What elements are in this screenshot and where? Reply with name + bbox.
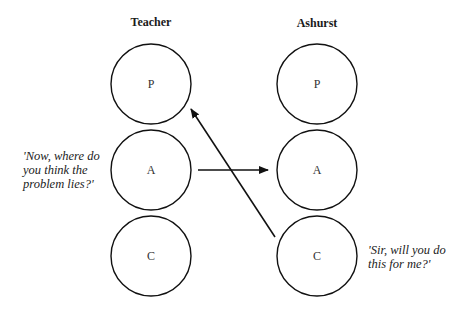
- teacher-quote-line: problem lies?': [23, 177, 100, 191]
- ashurst-quote-line: this for me?': [368, 257, 446, 271]
- ashurst-c-label: C: [313, 249, 321, 264]
- ashurst-p-label: P: [314, 77, 321, 92]
- ashurst-quote: 'Sir, will you do this for me?': [368, 243, 446, 271]
- arrow-ashurst-child-to-teacher-parent: [191, 109, 275, 237]
- teacher-quote-line: 'Now, where do: [23, 149, 100, 163]
- teacher-p-label: P: [148, 77, 155, 92]
- teacher-title: Teacher: [131, 15, 172, 30]
- teacher-quote-line: you think the: [23, 163, 100, 177]
- teacher-c-label: C: [147, 249, 155, 264]
- teacher-quote: 'Now, where do you think the problem lie…: [23, 149, 100, 191]
- ashurst-title: Ashurst: [297, 16, 338, 31]
- teacher-a-label: A: [147, 163, 156, 178]
- ashurst-a-label: A: [313, 163, 322, 178]
- ashurst-quote-line: 'Sir, will you do: [368, 243, 446, 257]
